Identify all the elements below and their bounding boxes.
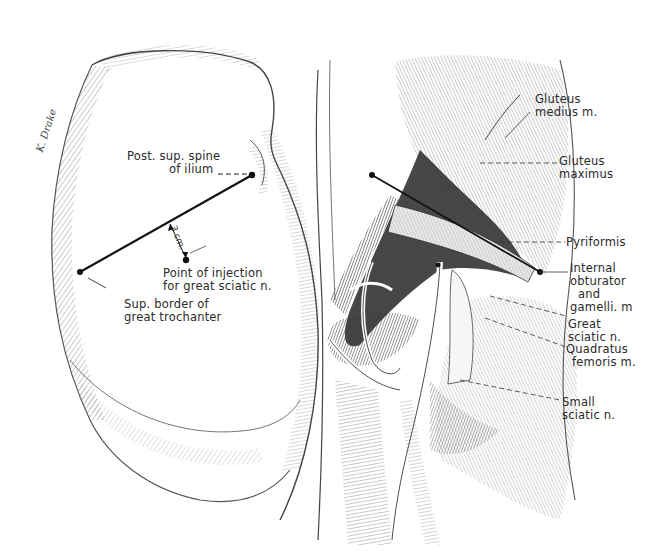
trochanter-spine-line xyxy=(80,175,252,272)
right-panel-dissection xyxy=(316,55,577,545)
label-great-sciatic: Great sciatic n. xyxy=(568,318,621,344)
label-sup-border-trochanter: Sup. border of great trochanter xyxy=(124,298,222,324)
label-injection-point: Point of injection for great sciatic n. xyxy=(163,267,272,293)
label-gluteus-medius: Gluteus medius m. xyxy=(535,93,597,119)
label-post-sup-spine: Post. sup. spine of ilium xyxy=(127,150,220,176)
spine-point xyxy=(249,172,255,178)
label-pyriformis: Pyriformis xyxy=(566,236,626,249)
injection-point-marker xyxy=(183,257,189,263)
label-quadratus-femoris: Quadratus femoris m. xyxy=(566,343,636,369)
anatomical-illustration xyxy=(0,0,658,552)
label-internal-obturator: Internal obturator and gamelli. m xyxy=(570,262,633,314)
trochanter-point xyxy=(77,269,83,275)
label-small-sciatic: Small sciatic n. xyxy=(562,396,615,422)
label-gluteus-maximus: Gluteus maximus xyxy=(559,155,613,181)
